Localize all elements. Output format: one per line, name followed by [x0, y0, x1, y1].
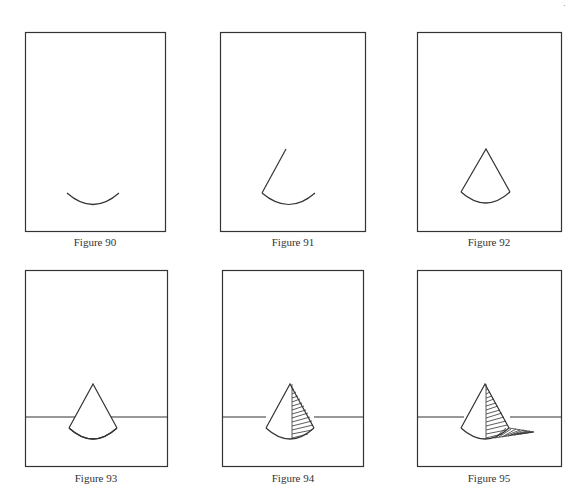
figure-91-drawing	[221, 33, 366, 232]
cone-base-arc	[461, 428, 509, 439]
caption-figure-90: Figure 90	[15, 236, 175, 248]
figure-92-drawing	[418, 33, 562, 232]
frame	[223, 271, 364, 467]
cone-shading	[292, 384, 313, 439]
cone-sides	[69, 384, 117, 428]
caption-figure-94: Figure 94	[213, 472, 373, 484]
figure-94-drawing	[223, 271, 364, 467]
cone-sides	[461, 384, 509, 428]
cone-left-side	[262, 149, 286, 193]
figure-95-drawing	[418, 271, 562, 467]
cone-sides	[266, 384, 314, 428]
caption-figure-93: Figure 93	[16, 472, 176, 484]
cone-base-arc	[266, 428, 314, 439]
cone-base-arc	[461, 192, 510, 203]
frame	[221, 33, 366, 232]
cast-shadow	[494, 428, 534, 438]
caption-figure-92: Figure 92	[409, 236, 569, 248]
cone-sides	[461, 149, 510, 192]
frame	[26, 33, 166, 232]
frame	[418, 33, 562, 232]
figure-93-drawing	[26, 271, 168, 467]
cone-base-arc	[67, 193, 119, 205]
cone-shading	[486, 384, 507, 439]
cone-base-arc	[262, 193, 315, 205]
figure-90-drawing	[26, 33, 166, 232]
caption-figure-95: Figure 95	[409, 472, 569, 484]
frame	[26, 271, 168, 467]
caption-figure-91: Figure 91	[213, 236, 373, 248]
